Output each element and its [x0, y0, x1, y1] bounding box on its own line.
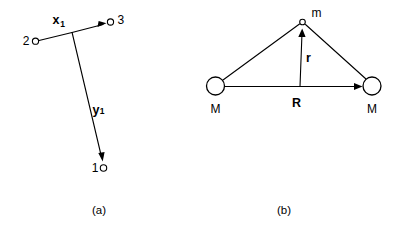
- mass-m-label: m: [312, 6, 322, 20]
- panel-a-caption: (a): [92, 204, 106, 216]
- y1-arrowhead-icon: [98, 152, 104, 162]
- mass-right-label: M: [367, 102, 377, 116]
- node-2-marker: [32, 38, 38, 44]
- x1-arrowhead-icon: [98, 21, 107, 27]
- x1-axis-line-left: [39, 33, 72, 41]
- vector-r-line: [300, 33, 302, 87]
- mass-right-marker: [363, 77, 381, 95]
- mass-left-marker: [207, 77, 225, 95]
- node-2-label: 2: [23, 34, 30, 48]
- vector-x1-symbol: x: [53, 13, 60, 27]
- panel-b-group: M M m R r (b): [207, 6, 382, 216]
- mass-left-label: M: [211, 102, 221, 116]
- y1-axis-line: [72, 33, 101, 157]
- triangle-side-left: [223, 24, 300, 80]
- vector-r-arrowhead-icon: [298, 29, 305, 38]
- node-3-marker: [107, 19, 113, 25]
- vector-y1-subscript: 1: [100, 106, 105, 116]
- node-3-label: 3: [118, 13, 125, 27]
- figure-canvas: 3 2 x 1 1 y 1 (a): [0, 0, 399, 240]
- triangle-side-right: [306, 25, 367, 80]
- vector-y1-symbol: y: [93, 103, 100, 117]
- panel-b-caption: (b): [277, 204, 291, 216]
- panel-a-group: 3 2 x 1 1 y 1 (a): [23, 13, 125, 217]
- vector-r-symbol: r: [306, 51, 311, 65]
- node-1-marker: [100, 165, 106, 171]
- node-1-label: 1: [92, 161, 99, 175]
- mass-m-marker: [300, 19, 306, 25]
- figure-root: 3 2 x 1 1 y 1 (a): [0, 0, 399, 240]
- vector-x1-subscript: 1: [60, 19, 65, 29]
- vector-R-symbol: R: [292, 96, 301, 110]
- vector-R-arrowhead-icon: [354, 83, 363, 90]
